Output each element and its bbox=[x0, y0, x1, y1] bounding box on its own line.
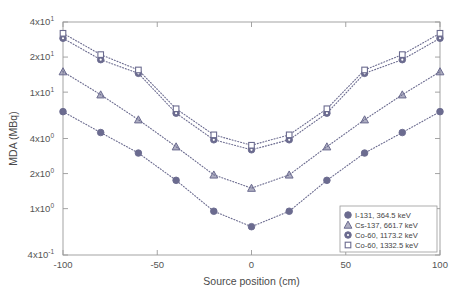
data-marker bbox=[324, 177, 331, 184]
data-marker bbox=[400, 52, 406, 58]
data-marker-dot bbox=[326, 112, 328, 114]
legend-label: I-131, 364.5 keV bbox=[355, 211, 412, 220]
legend-item-2[interactable]: Co-60, 1173.2 keV bbox=[345, 231, 419, 240]
data-marker bbox=[437, 30, 443, 36]
data-marker-dot bbox=[250, 149, 252, 151]
data-marker bbox=[437, 108, 444, 115]
data-marker-dot bbox=[439, 37, 441, 39]
x-tick-label: 0 bbox=[249, 259, 254, 270]
data-marker bbox=[361, 150, 368, 157]
data-marker bbox=[60, 108, 67, 115]
data-marker bbox=[97, 129, 104, 136]
data-marker bbox=[399, 129, 406, 136]
data-marker bbox=[173, 106, 179, 112]
data-marker-dot bbox=[401, 59, 403, 61]
data-marker bbox=[249, 142, 255, 148]
data-marker bbox=[286, 132, 292, 138]
legend-label: Co-60, 1173.2 keV bbox=[355, 231, 419, 240]
legend[interactable]: I-131, 364.5 keVCs-137, 661.7 keVCo-60, … bbox=[340, 206, 437, 252]
x-axis-title: Source position (cm) bbox=[203, 275, 299, 287]
data-marker bbox=[135, 150, 142, 157]
data-marker bbox=[248, 223, 255, 230]
data-marker bbox=[60, 30, 66, 36]
data-marker bbox=[286, 208, 293, 215]
data-marker-dot bbox=[288, 139, 290, 141]
data-marker bbox=[324, 106, 330, 112]
legend-item-3[interactable]: Co-60, 1332.5 keV bbox=[345, 241, 419, 250]
data-marker-dot bbox=[347, 234, 349, 236]
data-marker-dot bbox=[100, 59, 102, 61]
data-marker bbox=[136, 67, 142, 73]
x-tick-label: -50 bbox=[150, 259, 164, 270]
data-marker bbox=[211, 208, 218, 215]
data-marker-dot bbox=[175, 112, 177, 114]
data-marker bbox=[98, 52, 104, 58]
chart-svg: 4x10-11x1002x1004x1001x1012x1014x101-100… bbox=[0, 0, 465, 295]
legend-label: Co-60, 1332.5 keV bbox=[355, 241, 419, 250]
y-axis-title: MDA (MBq) bbox=[7, 111, 19, 165]
data-marker bbox=[211, 132, 217, 138]
data-marker-dot bbox=[213, 139, 215, 141]
legend-item-0[interactable]: I-131, 364.5 keV bbox=[345, 211, 412, 220]
x-tick-label: 100 bbox=[432, 259, 448, 270]
data-marker-dot bbox=[62, 37, 64, 39]
x-tick-label: -100 bbox=[53, 259, 72, 270]
legend-label: Cs-137, 661.7 keV bbox=[355, 221, 419, 230]
data-marker bbox=[173, 177, 180, 184]
x-tick-label: 50 bbox=[340, 259, 351, 270]
data-marker bbox=[362, 67, 368, 73]
legend-item-1[interactable]: Cs-137, 661.7 keV bbox=[344, 221, 419, 230]
data-marker bbox=[345, 212, 352, 219]
data-marker bbox=[345, 242, 351, 248]
figure-container: 4x10-11x1002x1004x1001x1012x1014x101-100… bbox=[0, 0, 465, 295]
